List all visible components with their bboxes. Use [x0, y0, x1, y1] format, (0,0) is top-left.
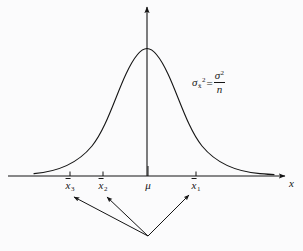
- tick-label-mu: μ: [145, 180, 151, 191]
- tick-subscript: 1: [197, 185, 201, 193]
- sigma-subscript: x̄: [198, 82, 202, 90]
- overbar: [192, 178, 197, 179]
- overbar: [66, 178, 71, 179]
- x-axis-label: x: [289, 178, 294, 189]
- formula-fraction: σ2 n: [214, 70, 225, 95]
- tick-label-base: x: [66, 179, 71, 191]
- mu-symbol: μ: [145, 179, 151, 191]
- x-bar-symbol: x: [192, 180, 197, 191]
- variance-formula: σx̄2 = σ2 n: [192, 70, 225, 95]
- formula-lhs: σx̄2: [192, 76, 205, 90]
- distribution-figure: [0, 0, 303, 251]
- x-bar-symbol: x: [66, 180, 71, 191]
- tick-label-x1: x1: [192, 180, 201, 193]
- arrow-to-x2: [107, 197, 148, 236]
- fraction-numerator: σ2: [214, 70, 225, 82]
- tick-subscript: 3: [71, 185, 75, 193]
- arrow-to-x1: [148, 195, 189, 236]
- overbar: [99, 178, 104, 179]
- x-bar-symbol: x: [99, 180, 104, 191]
- equals-sign: =: [206, 77, 212, 89]
- tick-label-base: x: [192, 179, 197, 191]
- tick-subscript: 2: [104, 185, 108, 193]
- numerator-sigma: σ: [215, 69, 220, 81]
- sigma-superscript: 2: [202, 76, 206, 84]
- tick-label-x3: x3: [66, 180, 75, 193]
- sigma-symbol: σ: [192, 76, 197, 88]
- figure-container: x x3 x2 μ x1 σx̄2 = σ2 n: [0, 0, 303, 251]
- tick-label-x2: x2: [99, 180, 108, 193]
- arrow-to-x3: [74, 197, 148, 236]
- numerator-superscript: 2: [221, 69, 225, 77]
- normal-curve: [34, 49, 274, 175]
- fraction-denominator: n: [216, 83, 224, 95]
- tick-label-base: x: [99, 179, 104, 191]
